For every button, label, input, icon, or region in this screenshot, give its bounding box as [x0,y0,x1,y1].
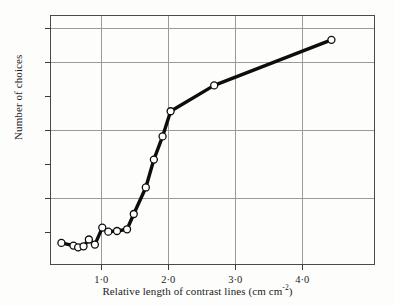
gridline-vertical [302,16,303,264]
x-axis-title: Relative length of contrast lines (cm cm… [0,283,395,297]
y-axis-tick [45,130,51,131]
y-axis-tick [45,62,51,63]
plot-area: 1002003004005006007001·02·03·04·0 [50,15,375,265]
y-axis-tick [45,198,51,199]
gridline-horizontal [51,130,374,131]
y-axis-tick [45,164,51,165]
gridline-horizontal [51,198,374,199]
gridline-horizontal [51,62,374,63]
x-axis-tick [168,264,169,270]
y-axis-title: Number of choices [12,55,24,140]
x-axis-title-tail: ) [289,285,293,297]
gridline-vertical [168,16,169,264]
y-axis-tick [45,28,51,29]
x-axis-tick [235,264,236,270]
gridline-vertical [235,16,236,264]
y-axis-title-wrapper: Number of choices [16,0,17,306]
x-axis-tick [302,264,303,270]
y-axis-tick [45,232,51,233]
figure: Number of choices 1002003004005006007001… [0,0,395,306]
y-axis-tick [45,96,51,97]
gridline-horizontal [51,28,374,29]
gridline-vertical [101,16,102,264]
x-axis-title-main: Relative length of contrast lines (cm cm [102,285,282,297]
x-axis-tick [101,264,102,270]
